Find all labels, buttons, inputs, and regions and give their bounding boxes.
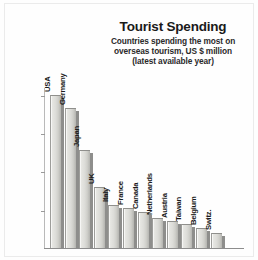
bar-category-label: Italy bbox=[101, 188, 110, 202]
bar[interactable] bbox=[108, 205, 119, 248]
bar[interactable] bbox=[138, 212, 149, 248]
y-tick-mark bbox=[41, 172, 45, 173]
y-tick-mark bbox=[41, 134, 45, 135]
bar-category-label: Switz. bbox=[204, 209, 213, 229]
bar-shadow bbox=[163, 221, 166, 248]
bar-shadow bbox=[149, 215, 152, 248]
bar[interactable] bbox=[211, 233, 222, 248]
chart-subtitle-line-1: Countries spending the most on bbox=[98, 37, 248, 46]
y-tick-mark bbox=[41, 211, 45, 212]
bar-shadow bbox=[90, 153, 93, 248]
bar[interactable] bbox=[196, 228, 207, 248]
bar[interactable] bbox=[152, 218, 163, 248]
bar-category-label: USA bbox=[43, 76, 52, 91]
bar-category-label: Taiwan bbox=[174, 197, 183, 221]
chart-title: Tourist Spending bbox=[98, 20, 248, 34]
bar-shadow bbox=[207, 231, 210, 248]
bar-category-label: Austria bbox=[160, 193, 169, 218]
bar-category-label: Netherlands bbox=[145, 173, 154, 215]
bar-shadow bbox=[61, 98, 64, 248]
bar-category-label: Canada bbox=[131, 183, 140, 209]
chart-subtitle-line-3: (latest available year) bbox=[98, 57, 248, 66]
bar-category-label: Germany bbox=[58, 74, 67, 106]
bar[interactable] bbox=[181, 224, 192, 248]
bar[interactable] bbox=[50, 95, 61, 248]
bar-shadow bbox=[178, 224, 181, 248]
bar-shadow bbox=[222, 236, 225, 248]
bar-category-label: Belgium bbox=[189, 196, 198, 225]
bar-category-label: UK bbox=[87, 173, 96, 184]
bar-shadow bbox=[134, 211, 137, 248]
y-tick-mark bbox=[41, 96, 45, 97]
bar[interactable] bbox=[123, 208, 134, 248]
title-block: Tourist Spending Countries spending the … bbox=[98, 20, 248, 65]
chart-figure: Tourist Spending Countries spending the … bbox=[0, 0, 258, 260]
x-axis-line bbox=[44, 248, 244, 249]
plot-area: 10,00020,00030,00040,000 USAGermanyJapan… bbox=[44, 88, 244, 249]
y-axis-line bbox=[44, 88, 45, 249]
bar-category-label: France bbox=[116, 181, 125, 205]
chart-subtitle-line-2: overseas tourism, US $ million bbox=[98, 47, 248, 56]
bar-shadow bbox=[119, 208, 122, 248]
bar[interactable] bbox=[167, 221, 178, 248]
bar-category-label: Japan bbox=[72, 126, 81, 147]
bar[interactable] bbox=[79, 150, 90, 248]
bar-shadow bbox=[192, 227, 195, 248]
